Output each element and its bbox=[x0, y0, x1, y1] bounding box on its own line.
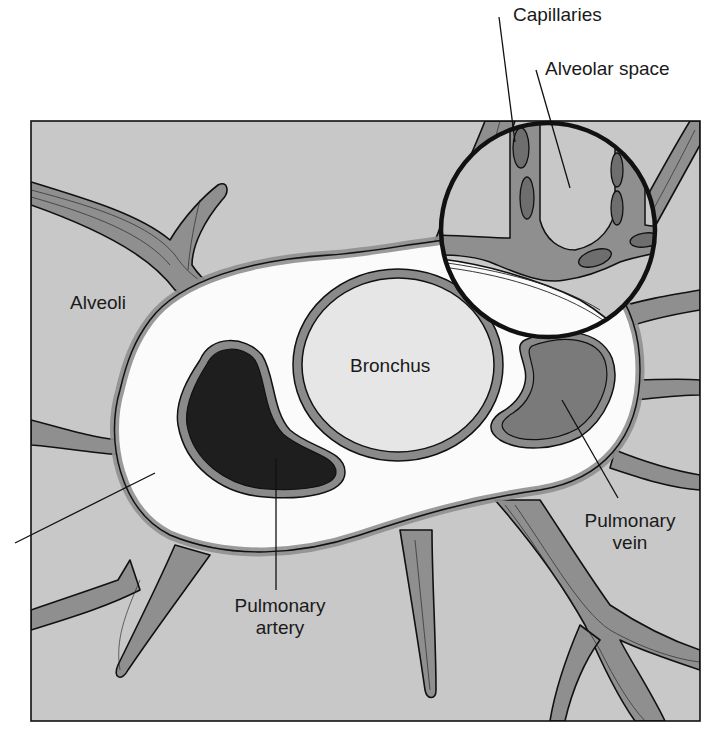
label-pulmonary-vein-line2: vein bbox=[570, 532, 690, 554]
label-bronchus: Bronchus bbox=[350, 355, 430, 377]
label-pulmonary-artery-line2: artery bbox=[220, 617, 340, 639]
label-pulmonary-vein: Pulmonary vein bbox=[570, 510, 690, 554]
label-pulmonary-artery-line1: Pulmonary bbox=[220, 595, 340, 617]
label-pulmonary-vein-line1: Pulmonary bbox=[570, 510, 690, 532]
label-alveolar-space: Alveolar space bbox=[545, 58, 670, 80]
label-pulmonary-artery: Pulmonary artery bbox=[220, 595, 340, 639]
label-alveoli: Alveoli bbox=[70, 292, 126, 314]
label-capillaries: Capillaries bbox=[513, 4, 602, 26]
